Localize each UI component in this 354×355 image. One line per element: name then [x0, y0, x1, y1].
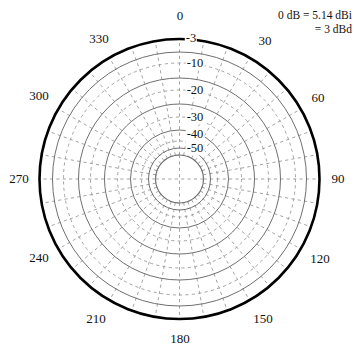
annotation-line-2: = 3 dBd — [278, 22, 352, 36]
polar-plot-canvas — [0, 0, 354, 355]
radial-tick-label-neg50: -50 — [186, 141, 205, 156]
angle-tick-label-30: 30 — [259, 33, 272, 49]
radial-tick-label-neg3: -3 — [185, 31, 197, 46]
angle-tick-label-0: 0 — [177, 8, 184, 24]
angle-tick-label-90: 90 — [332, 171, 345, 187]
polar-chart-page: 0306090120150180210240270300330 -3-10-20… — [0, 0, 354, 355]
angle-tick-label-180: 180 — [170, 331, 190, 347]
angle-tick-label-240: 240 — [29, 250, 49, 266]
radial-tick-label-neg10: -10 — [186, 56, 205, 71]
angle-tick-label-270: 270 — [9, 171, 29, 187]
angle-tick-label-300: 300 — [29, 88, 49, 104]
angle-tick-label-210: 210 — [86, 311, 106, 327]
angle-tick-label-120: 120 — [310, 251, 330, 267]
angle-tick-label-150: 150 — [253, 311, 273, 327]
radiation-pattern-trace — [40, 39, 320, 319]
radial-tick-label-neg40: -40 — [186, 127, 205, 142]
angle-tick-label-60: 60 — [312, 90, 325, 106]
radial-tick-label-neg20: -20 — [186, 83, 205, 98]
annotation-line-1: 0 dB = 5.14 dBi — [278, 8, 352, 22]
reference-annotation: 0 dB = 5.14 dBi = 3 dBd — [278, 8, 352, 36]
angle-tick-label-330: 330 — [89, 31, 109, 47]
dashed-ring-group — [64, 63, 296, 295]
radial-tick-label-neg30: -30 — [186, 110, 205, 125]
radial-spoke-group — [40, 39, 320, 319]
